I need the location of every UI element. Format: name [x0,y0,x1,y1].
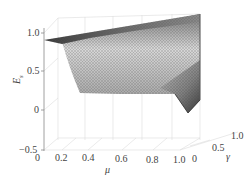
x-tick-3: 0.6 [115,154,128,164]
y-tick-1: 0.5 [212,143,225,153]
x-tick-4: 0.8 [146,155,159,165]
x-tick-2: 0.4 [82,153,95,163]
y-axis-label: γ [226,152,230,162]
z-tick-2: 0.5 [27,66,40,76]
x-tick-0: 0 [35,153,40,163]
z-tick-3: 0 [34,105,39,115]
z-axis [41,28,44,151]
x-axis-label: μ [105,165,110,175]
y-tick-2: 1.0 [231,131,244,141]
z-tick-1: 1.0 [27,28,40,38]
y-tick-0: 0 [192,154,197,164]
x-tick-5: 1.0 [173,155,186,165]
z-axis-label: Es [12,75,26,84]
x-tick-1: 0.2 [55,153,68,163]
